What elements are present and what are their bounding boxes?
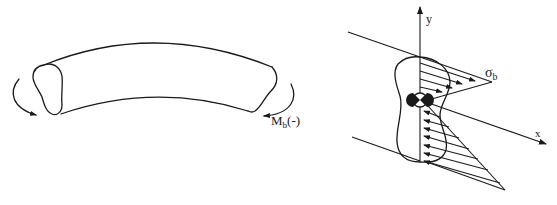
compression-arrow-3 bbox=[424, 128, 459, 138]
beam-right-end bbox=[248, 67, 277, 112]
tension-arrow-1 bbox=[420, 63, 475, 81]
bending-stress-diagram bbox=[0, 0, 557, 205]
right-moment-arrow-icon bbox=[264, 84, 294, 116]
y-axis-label: y bbox=[426, 13, 432, 25]
cross-section-outline bbox=[395, 57, 450, 162]
bending-stress-label: σb bbox=[485, 66, 497, 82]
stress-envelope-lower-base bbox=[424, 161, 505, 190]
bending-moment-label: Mb(-) bbox=[271, 114, 300, 130]
beam-top-edge bbox=[44, 43, 272, 67]
beam-upper-boundary-line bbox=[348, 32, 420, 57]
x-axis-label: x bbox=[535, 128, 541, 139]
moment-sign: (-) bbox=[287, 113, 300, 128]
tension-arrow-3 bbox=[420, 79, 452, 88]
stress-envelope-upper bbox=[420, 57, 492, 82]
beam-lower-boundary-line bbox=[352, 137, 420, 161]
tension-arrow-4 bbox=[420, 87, 442, 92]
tension-arrow-2 bbox=[420, 71, 462, 84]
compression-arrow-2 bbox=[424, 120, 449, 127]
compression-arrow-1 bbox=[424, 111, 440, 117]
beam-left-cross-section bbox=[33, 64, 62, 114]
stress-subscript: b bbox=[493, 71, 498, 82]
beam-bottom-edge bbox=[61, 97, 248, 114]
stress-distribution bbox=[348, 7, 546, 190]
curved-beam bbox=[33, 43, 277, 115]
left-moment-arrow-icon bbox=[13, 79, 36, 115]
stress-symbol: σ bbox=[485, 65, 493, 80]
tension-arrows bbox=[420, 63, 475, 92]
moment-symbol: M bbox=[271, 113, 283, 128]
x-axis bbox=[420, 100, 546, 144]
centroid-icon bbox=[406, 93, 434, 107]
